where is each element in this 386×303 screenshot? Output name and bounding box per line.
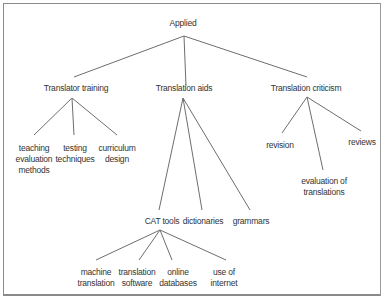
- edge-applied-translation-criticism: [184, 36, 307, 77]
- node-line: translations: [301, 187, 347, 198]
- node-line: databases: [159, 278, 196, 289]
- node-machine-translation: machine translation: [77, 267, 114, 289]
- node-line: curriculum: [98, 143, 135, 154]
- node-line: evaluation of: [301, 176, 347, 187]
- edge-applied-translator-training: [74, 36, 184, 77]
- node-line: techniques: [55, 154, 94, 165]
- node-translation-criticism: Translation criticism: [271, 83, 342, 94]
- node-line: teaching: [16, 143, 53, 154]
- edge-aids-grammars: [183, 98, 250, 210]
- edge-training-teaching: [34, 98, 72, 135]
- node-reviews: reviews: [348, 137, 375, 148]
- node-translation-aids: Translation aids: [156, 83, 213, 94]
- node-line: software: [118, 278, 155, 289]
- edge-criticism-reviews: [307, 97, 361, 131]
- node-line: machine: [77, 267, 114, 278]
- edge-criticism-evaluation: [307, 97, 323, 170]
- node-testing-techniques: testing techniques: [55, 143, 94, 165]
- node-translation-software: translation software: [118, 267, 155, 289]
- node-line: evaluation: [16, 154, 53, 165]
- node-online-databases: online databases: [159, 267, 196, 289]
- edge-training-testing: [72, 98, 74, 135]
- node-evaluation-of-translations: evaluation of translations: [301, 176, 347, 198]
- node-line: methods: [16, 165, 53, 176]
- node-line: translation: [77, 278, 114, 289]
- edge-aids-cat-tools: [159, 98, 183, 210]
- edge-applied-translation-aids: [184, 36, 186, 86]
- node-teaching-evaluation-methods: teaching evaluation methods: [16, 143, 53, 176]
- node-use-of-internet: use of internet: [211, 267, 238, 289]
- edge-criticism-revision: [282, 97, 307, 133]
- node-applied: Applied: [170, 18, 197, 29]
- edge-cat-machine: [96, 230, 160, 260]
- node-line: internet: [211, 278, 238, 289]
- node-curriculum-design: curriculum design: [98, 143, 135, 165]
- node-cat-tools: CAT tools: [145, 216, 180, 227]
- node-grammars: grammars: [233, 216, 270, 227]
- node-line: testing: [55, 143, 94, 154]
- node-line: online: [159, 267, 196, 278]
- node-revision: revision: [266, 140, 294, 151]
- node-line: translation: [118, 267, 155, 278]
- node-line: use of: [211, 267, 238, 278]
- edge-training-curriculum: [72, 98, 117, 135]
- node-dictionaries: dictionaries: [183, 216, 224, 227]
- node-translator-training: Translator training: [44, 83, 108, 94]
- node-line: design: [98, 154, 135, 165]
